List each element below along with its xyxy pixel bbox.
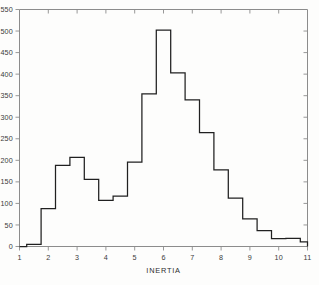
y-tick-label: 400 xyxy=(0,70,13,79)
y-tick-label: 500 xyxy=(0,27,13,36)
y-tick-label: 200 xyxy=(0,156,13,165)
x-tick-label: 2 xyxy=(46,253,50,262)
y-tick-label: 150 xyxy=(0,177,13,186)
plot-frame xyxy=(20,10,308,247)
x-axis-tick-marks xyxy=(20,247,308,251)
histogram-step-outline xyxy=(20,30,308,246)
x-tick-label: 4 xyxy=(104,253,108,262)
x-tick-label: 1 xyxy=(17,253,21,262)
x-axis-title: INERTIA xyxy=(146,266,180,275)
x-tick-label: 11 xyxy=(304,253,312,262)
histogram-figure: 050100150200250300350400450500550 123456… xyxy=(0,0,319,285)
y-tick-label: 250 xyxy=(0,134,13,143)
axes-frame xyxy=(20,10,308,247)
y-axis-tick-marks xyxy=(16,10,20,247)
y-tick-label: 0 xyxy=(9,242,13,251)
x-axis-top-tick-marks xyxy=(48,10,278,14)
y-tick-label: 50 xyxy=(5,221,13,230)
y-tick-label: 350 xyxy=(0,91,13,100)
x-tick-label: 10 xyxy=(274,253,282,262)
x-tick-label: 3 xyxy=(75,253,79,262)
y-tick-label: 300 xyxy=(0,113,13,122)
x-tick-label: 9 xyxy=(248,253,252,262)
x-axis-tick-labels: 1234567891011 xyxy=(17,253,311,262)
y-tick-label: 550 xyxy=(0,5,13,14)
x-tick-label: 6 xyxy=(161,253,165,262)
y-tick-label: 450 xyxy=(0,48,13,57)
x-tick-label: 8 xyxy=(219,253,223,262)
y-axis-tick-labels: 050100150200250300350400450500550 xyxy=(0,5,13,251)
inertia-histogram-chart: 050100150200250300350400450500550 123456… xyxy=(0,0,319,285)
x-tick-label: 7 xyxy=(190,253,194,262)
x-tick-label: 5 xyxy=(133,253,137,262)
y-axis-right-tick-marks xyxy=(304,31,308,225)
y-tick-label: 100 xyxy=(0,199,13,208)
